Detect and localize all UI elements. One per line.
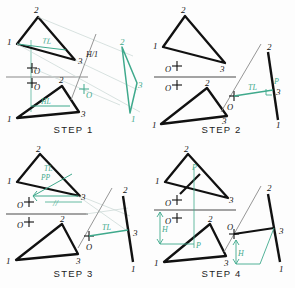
front-vertex-3: 3 bbox=[75, 256, 81, 266]
edge-vertex-3: 3 bbox=[278, 226, 284, 236]
front-view-triangle bbox=[164, 224, 226, 262]
front-vertex-1: 1 bbox=[6, 256, 11, 266]
point-o-top: O bbox=[165, 195, 182, 208]
label-o-front: O bbox=[165, 83, 171, 93]
top-vertex-1: 1 bbox=[7, 37, 12, 47]
edge-vertex-3: 3 bbox=[132, 228, 138, 238]
label-p: P bbox=[273, 77, 279, 86]
top-vertex-2: 2 bbox=[36, 144, 41, 154]
point-o-front: O bbox=[165, 213, 182, 226]
edge-view-line bbox=[268, 52, 278, 120]
top-vertex-3: 3 bbox=[228, 195, 234, 205]
point-o-front: O bbox=[165, 80, 182, 93]
edge-vertex-2: 2 bbox=[267, 42, 272, 52]
point-o-top: O bbox=[17, 197, 34, 210]
step1-caption: STEP 1 bbox=[0, 124, 147, 135]
label-o-top: O bbox=[17, 200, 23, 210]
label-tl: TL bbox=[42, 36, 52, 46]
top-vertex-2: 2 bbox=[181, 5, 186, 15]
top-vertex-1: 1 bbox=[153, 41, 158, 51]
top-vertex-3: 3 bbox=[77, 56, 83, 66]
edge-vertex-2: 2 bbox=[123, 185, 128, 195]
point-o-top: O bbox=[165, 61, 182, 74]
figure-sheet: TL HL O O bbox=[0, 0, 295, 288]
panel-step2: O O O TL P 2 1 3 bbox=[148, 0, 295, 144]
edge-vertex-3: 3 bbox=[275, 87, 281, 97]
label-o-aux: O bbox=[227, 222, 233, 232]
point-o-aux: O bbox=[227, 91, 239, 112]
point-o-front: O bbox=[17, 217, 34, 230]
top-vertex-1: 1 bbox=[7, 176, 12, 186]
perpendicular-aux bbox=[234, 228, 274, 234]
point-o-front: O bbox=[27, 78, 40, 92]
label-fold-h1: H/1 bbox=[85, 50, 98, 59]
label-o-front: O bbox=[17, 220, 23, 230]
top-vertex-3: 3 bbox=[80, 192, 86, 202]
front-vertex-3: 3 bbox=[80, 109, 86, 119]
label-h-aux: H bbox=[237, 249, 245, 258]
front-vertex-1: 1 bbox=[7, 114, 12, 124]
label-o-aux: O bbox=[86, 242, 92, 252]
label-pp: PP bbox=[40, 173, 51, 182]
front-vertex-2: 2 bbox=[208, 214, 213, 224]
front-vertex-3: 3 bbox=[223, 258, 229, 268]
step2-caption: STEP 2 bbox=[148, 124, 295, 135]
label-tl: TL bbox=[248, 83, 257, 92]
label-tl-top: TL bbox=[44, 164, 52, 173]
top-vertex-2: 2 bbox=[34, 5, 39, 15]
panel-step1: TL HL O O bbox=[0, 0, 147, 144]
top-view-triangle bbox=[163, 16, 225, 63]
top-vertex-2: 2 bbox=[184, 144, 189, 154]
point-o-aux: O bbox=[79, 84, 92, 100]
aux-vertex-3: 3 bbox=[137, 80, 143, 90]
point-o-top: O bbox=[27, 63, 40, 76]
label-o-aux: O bbox=[86, 90, 92, 100]
label-o-top: O bbox=[165, 198, 171, 208]
label-o-front: O bbox=[34, 82, 40, 92]
aux-vertex-2: 2 bbox=[120, 37, 125, 47]
top-vertex-1: 1 bbox=[155, 176, 160, 186]
panel-step3: TL PP // O O bbox=[0, 144, 147, 288]
label-o-top: O bbox=[165, 64, 171, 74]
aux-vertex-1: 1 bbox=[131, 114, 136, 124]
step1-drawing: TL HL O O bbox=[0, 0, 147, 144]
edge-vertex-2: 2 bbox=[267, 183, 272, 193]
front-vertex-2: 2 bbox=[60, 214, 65, 224]
front-vertex-2: 2 bbox=[205, 78, 210, 88]
label-o-front: O bbox=[165, 216, 171, 226]
label-hl: HL bbox=[40, 97, 51, 106]
front-vertex-2: 2 bbox=[59, 75, 64, 85]
panel-step4: P P H O O bbox=[148, 144, 295, 288]
label-parallel: // bbox=[52, 198, 60, 208]
step3-caption: STEP 3 bbox=[0, 268, 147, 279]
step3-drawing: TL PP // O O bbox=[0, 144, 147, 288]
label-tl-aux: TL bbox=[102, 223, 111, 232]
label-o-aux: O bbox=[227, 102, 233, 112]
front-view-triangle bbox=[161, 88, 227, 124]
step4-caption: STEP 4 bbox=[148, 268, 295, 279]
step2-drawing: O O O TL P 2 1 3 bbox=[148, 0, 295, 144]
front-vertex-1: 1 bbox=[154, 258, 159, 268]
step4-drawing: P P H O O bbox=[148, 144, 295, 288]
label-h-front: H bbox=[161, 225, 169, 234]
label-p-front: P bbox=[195, 241, 201, 250]
top-vertex-3: 3 bbox=[219, 64, 225, 74]
front-view-triangle bbox=[16, 224, 78, 260]
